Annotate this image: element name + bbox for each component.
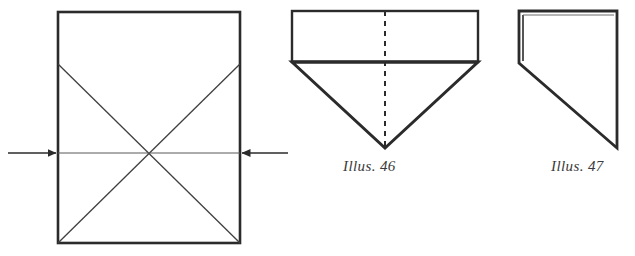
caption-illus-47: Illus. 47 [551,158,604,175]
illus47-outline [519,11,617,148]
figure-illus-46 [292,11,478,148]
caption-illus-46: Illus. 46 [343,158,396,175]
square-outline [58,12,240,243]
figure-plate: Illus. 46 Illus. 47 [0,0,635,256]
figure-illus-47 [519,11,617,148]
figure-square-with-diagonals [8,12,288,243]
diagram-canvas [0,0,635,256]
